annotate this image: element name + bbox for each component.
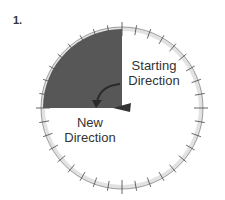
new-label-line1: New: [58, 115, 122, 130]
shaded-quadrant: [43, 29, 122, 108]
new-label-line2: Direction: [58, 130, 122, 145]
starting-label-line1: Starting: [127, 58, 181, 73]
starting-label-line2: Direction: [127, 73, 181, 88]
new-direction-label: New Direction: [58, 115, 122, 145]
direction-dial: [0, 0, 225, 200]
starting-direction-label: Starting Direction: [127, 58, 181, 88]
